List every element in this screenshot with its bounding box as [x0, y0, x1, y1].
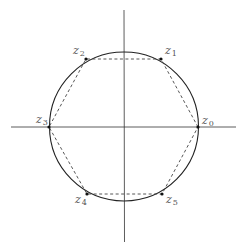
y-axis [124, 10, 125, 242]
vertex-z5 [160, 192, 163, 195]
label-z0: z0 [201, 114, 214, 128]
vertex-points [47, 57, 199, 195]
label-z1: z1 [164, 44, 177, 58]
inscribed-hexagon [49, 59, 198, 194]
vertex-z0 [196, 125, 199, 128]
vertex-z4 [85, 192, 88, 195]
label-z5: z5 [165, 193, 178, 207]
label-z3: z3 [35, 113, 48, 127]
label-z2: z2 [72, 44, 85, 58]
roots-of-unity-diagram: z0 z1 z2 z3 z4 z5 [0, 0, 242, 248]
vertex-z1 [159, 57, 162, 60]
label-z4: z4 [74, 193, 87, 207]
